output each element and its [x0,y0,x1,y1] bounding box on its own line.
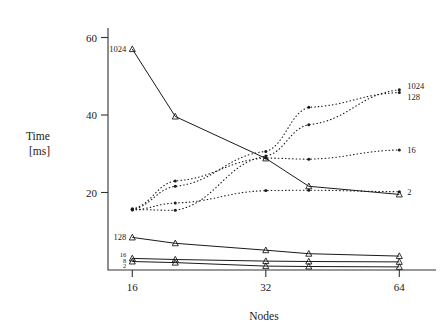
data-point-marker [264,189,267,192]
series-line-1024 [132,49,399,194]
data-point-marker [131,208,134,211]
data-point-marker [174,209,177,212]
y-tick-label: 20 [86,187,98,199]
time-vs-nodes-line-chart: 204060 163264 102412816821024128162 Time… [0,0,443,333]
data-point-marker [398,88,401,91]
data-point-marker [307,106,310,109]
series-label-2: 2 [123,262,126,269]
data-point-marker [307,189,310,192]
y-tick-label: 60 [86,32,98,44]
data-point-marker [307,123,310,126]
data-point-marker [398,190,401,193]
data-point-marker [307,158,310,161]
series-line-2-dotted [132,190,399,210]
data-point-marker [129,234,135,240]
x-axis-ticks: 163264 [127,270,406,293]
data-point-marker [174,179,177,182]
data-point-marker [174,185,177,188]
series-label-1024: 1024 [407,81,425,91]
series-label-2: 2 [407,187,411,197]
series-label-128: 128 [407,92,420,102]
data-point-marker [398,148,401,151]
data-point-marker [174,201,177,204]
data-point-marker [264,150,267,153]
series-layer [129,46,402,269]
data-point-marker [398,91,401,94]
y-axis-title-line2: [ms] [29,145,50,157]
series-label-1024: 1024 [109,44,127,54]
data-point-marker [129,46,135,52]
series-label-128: 128 [114,232,127,242]
chart-figure: 204060 163264 102412816821024128162 Time… [0,0,443,333]
series-label-16: 16 [407,145,416,155]
x-axis-title: Nodes [249,310,279,322]
x-tick-label: 32 [260,281,271,293]
data-point-marker [264,157,267,160]
y-axis-ticks: 204060 [86,32,108,199]
y-tick-label: 40 [86,109,98,121]
chart-axes-lines [108,28,436,270]
y-axis-title-line1: Time [26,130,50,142]
x-tick-label: 64 [394,281,406,293]
x-tick-label: 16 [127,281,139,293]
